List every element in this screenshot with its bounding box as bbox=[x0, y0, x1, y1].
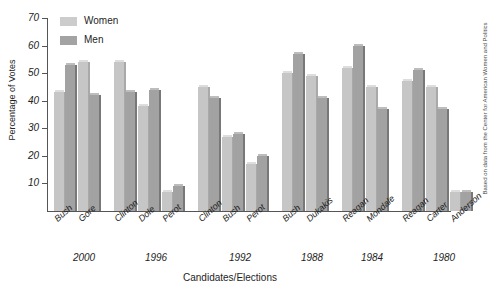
x-axis-title: Candidates/Elections bbox=[0, 272, 460, 283]
source-note: Based on data from the Center for Americ… bbox=[482, 21, 489, 196]
bar-women-dukakis-1988 bbox=[306, 76, 316, 211]
bar-men-clinton-1996 bbox=[125, 92, 135, 211]
bar-women-reagan-1984 bbox=[342, 68, 352, 211]
x-group-label-1988: 1988 bbox=[289, 253, 335, 263]
x-group-label-1984: 1984 bbox=[349, 253, 395, 263]
bar-men-dole-1996 bbox=[149, 90, 159, 211]
y-tick-mark bbox=[42, 183, 47, 184]
bar-women-bush-1988 bbox=[282, 73, 292, 211]
bar-chart: 70605040302010 Percentage of Votes Women… bbox=[0, 0, 493, 292]
y-tick-mark bbox=[42, 73, 47, 74]
bar-women-dole-1996 bbox=[138, 106, 148, 211]
bar-women-mondale-1984 bbox=[366, 87, 376, 211]
bar-men-reagan-1984 bbox=[353, 46, 363, 211]
y-tick-mark bbox=[42, 128, 47, 129]
bar-women-clinton-1992 bbox=[198, 87, 208, 211]
y-tick-label: 20 bbox=[17, 151, 39, 161]
bar-men-bush-1988 bbox=[293, 54, 303, 211]
bar-men-bush-2000 bbox=[65, 65, 75, 211]
bar-men-gore-2000 bbox=[89, 95, 99, 211]
bar-women-carter-1980 bbox=[426, 87, 436, 211]
x-group-label-1992: 1992 bbox=[217, 253, 263, 263]
y-tick-label: 40 bbox=[17, 96, 39, 106]
bar-women-reagan-1980 bbox=[402, 81, 412, 211]
x-group-label-1980: 1980 bbox=[421, 253, 467, 263]
y-tick-mark bbox=[42, 46, 47, 47]
plot-area bbox=[48, 18, 451, 211]
bar-women-bush-2000 bbox=[54, 92, 64, 211]
y-tick-label: 60 bbox=[17, 41, 39, 51]
bar-men-bush-1992 bbox=[233, 134, 243, 211]
y-tick-label: 50 bbox=[17, 68, 39, 78]
bar-men-clinton-1992 bbox=[209, 98, 219, 211]
y-tick-mark bbox=[42, 18, 47, 19]
y-tick-label: 10 bbox=[17, 178, 39, 188]
y-tick-label: 70 bbox=[17, 13, 39, 23]
bar-women-clinton-1996 bbox=[114, 62, 124, 211]
y-tick-label: 30 bbox=[17, 123, 39, 133]
y-tick-mark bbox=[42, 101, 47, 102]
y-tick-mark bbox=[42, 156, 47, 157]
bar-women-perot-1992 bbox=[246, 164, 256, 211]
bar-men-carter-1980 bbox=[437, 109, 447, 211]
y-axis-title: Percentage of Votes bbox=[7, 45, 17, 155]
bar-women-gore-2000 bbox=[78, 62, 88, 211]
x-group-label-1996: 1996 bbox=[133, 253, 179, 263]
bar-men-dukakis-1988 bbox=[317, 98, 327, 211]
x-group-label-2000: 2000 bbox=[61, 253, 107, 263]
bar-men-reagan-1980 bbox=[413, 70, 423, 211]
bar-women-bush-1992 bbox=[222, 137, 232, 211]
